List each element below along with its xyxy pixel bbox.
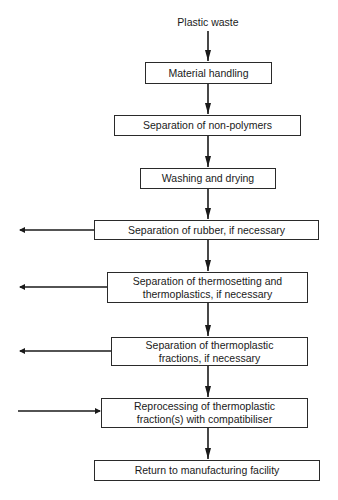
step-separation-rubber: Separation of rubber, if necessary (94, 220, 319, 240)
step-label: Washing and drying (162, 172, 254, 185)
step-label: Separation of non-polymers (143, 119, 272, 132)
start-label: Plastic waste (148, 16, 268, 28)
step-label: Separation of thermoplastic fractions, i… (142, 339, 277, 365)
step-label: Separation of thermosetting and thermopl… (122, 275, 293, 301)
step-return-manufacturing: Return to manufacturing facility (94, 460, 320, 481)
step-reprocessing: Reprocessing of thermoplastic fraction(s… (101, 398, 308, 428)
step-washing-drying: Washing and drying (140, 168, 276, 189)
step-label: Material handling (169, 67, 249, 80)
step-label: Reprocessing of thermoplastic fraction(s… (122, 400, 287, 426)
step-material-handling: Material handling (145, 62, 272, 84)
step-label: Separation of rubber, if necessary (128, 224, 285, 237)
step-separation-non-polymers: Separation of non-polymers (114, 115, 301, 136)
step-label: Return to manufacturing facility (135, 464, 280, 477)
step-separation-thermoplastic-fractions: Separation of thermoplastic fractions, i… (111, 337, 308, 366)
step-separation-thermosetting: Separation of thermosetting and thermopl… (107, 272, 308, 303)
